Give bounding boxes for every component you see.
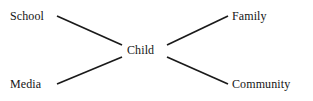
node-school: School [10, 10, 44, 23]
node-family: Family [232, 10, 267, 23]
diagram-canvas: School Media Child Family Community [0, 0, 313, 101]
node-child: Child [127, 44, 154, 57]
node-community: Community [232, 78, 290, 91]
edge-school-child [57, 16, 122, 45]
edge-child-community [167, 57, 228, 84]
node-media: Media [10, 78, 41, 91]
edge-media-child [57, 57, 122, 84]
edge-child-family [167, 16, 228, 45]
